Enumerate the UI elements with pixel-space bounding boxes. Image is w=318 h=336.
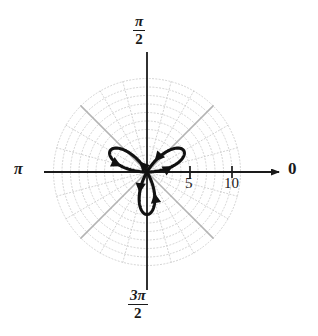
radial-tick-label-5: 5 [185,176,193,191]
direction-arrow [134,182,145,193]
polar-angle-label-pi-over-2: π 2 [133,14,145,47]
grid-spoke-165deg [57,148,147,172]
radial-tick-label-10: 10 [224,176,239,191]
grid-spoke-315deg [147,172,213,238]
polar-plot-figure: π 2 3π 2 π 0 5 10 [0,0,318,336]
polar-plot-canvas [0,0,318,336]
grid-spoke-225deg [81,172,147,238]
polar-angle-label-zero: 0 [288,160,297,177]
polar-angle-label-pi: π [14,161,23,177]
polar-angle-label-3pi-over-2: 3π 2 [128,288,148,321]
pi-over-2-denominator: 2 [133,31,145,47]
direction-arrow [161,162,175,176]
pi-over-2-numerator: π [133,14,145,31]
three-pi-over-2-denominator: 2 [128,305,148,321]
grid-spoke-195deg [57,172,147,196]
three-pi-over-2-numerator: 3π [128,288,148,305]
